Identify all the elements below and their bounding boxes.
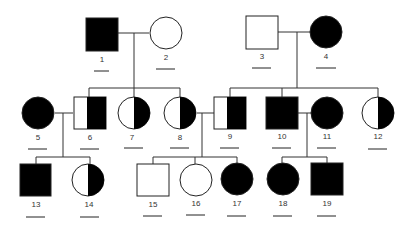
individual-label: 13 — [32, 200, 41, 209]
individual-label: 14 — [85, 200, 94, 209]
individual-label: 4 — [324, 52, 329, 61]
individual-label: 15 — [149, 200, 158, 209]
individual-10: 10 — [266, 97, 298, 148]
carrier-half-fill — [134, 97, 150, 129]
affected-male-square-icon — [311, 163, 343, 195]
unaffected-female-circle-icon — [180, 164, 212, 196]
affected-female-circle-icon — [310, 16, 342, 48]
individual-8: 8 — [164, 97, 196, 148]
individual-label: 7 — [130, 133, 135, 142]
carrier-half-fill — [378, 97, 394, 129]
unaffected-female-circle-icon — [150, 17, 182, 49]
individual-12: 12 — [362, 97, 394, 149]
individual-label: 16 — [192, 199, 201, 208]
affected-female-circle-icon — [22, 97, 54, 129]
individual-19: 19 — [311, 163, 343, 216]
individual-11: 11 — [311, 97, 343, 148]
individual-7: 7 — [118, 97, 150, 148]
individual-2: 2 — [150, 17, 182, 69]
carrier-half-fill — [227, 97, 246, 129]
individual-label: 19 — [323, 199, 332, 208]
carrier-half-fill — [87, 97, 106, 129]
individual-6: 6 — [74, 97, 106, 149]
affected-male-square-icon — [20, 164, 51, 196]
individual-16: 16 — [180, 164, 212, 215]
individual-label: 1 — [100, 55, 105, 64]
individual-label: 11 — [323, 132, 332, 141]
individual-13: 13 — [20, 164, 51, 217]
individual-label: 9 — [228, 132, 233, 141]
individual-label: 10 — [278, 132, 287, 141]
individual-label: 12 — [374, 132, 383, 141]
individual-label: 3 — [260, 52, 265, 61]
individual-14: 14 — [72, 164, 104, 217]
individual-label: 8 — [178, 133, 183, 142]
unaffected-male-square-icon — [246, 16, 278, 49]
individual-18: 18 — [267, 163, 299, 216]
affected-male-square-icon — [266, 97, 298, 129]
individual-label: 6 — [88, 133, 93, 142]
individual-label: 17 — [233, 199, 242, 208]
individual-label: 2 — [164, 53, 169, 62]
carrier-half-fill — [88, 164, 104, 196]
affected-male-square-icon — [86, 18, 118, 51]
individual-17: 17 — [221, 163, 253, 216]
unaffected-male-square-icon — [137, 164, 169, 196]
individual-4: 4 — [310, 16, 342, 68]
individual-5: 5 — [22, 97, 54, 149]
affected-female-circle-icon — [311, 97, 343, 129]
pedigree-chart: 1 2 3 4 5 6 7 8 — [0, 0, 411, 229]
individual-label: 5 — [36, 133, 41, 142]
individual-1: 1 — [86, 18, 118, 71]
individual-label: 18 — [279, 199, 288, 208]
affected-female-circle-icon — [267, 163, 299, 195]
individual-3: 3 — [246, 16, 278, 68]
carrier-half-fill — [180, 97, 196, 129]
individual-9: 9 — [214, 97, 246, 148]
affected-female-circle-icon — [221, 163, 253, 195]
individual-15: 15 — [137, 164, 169, 216]
